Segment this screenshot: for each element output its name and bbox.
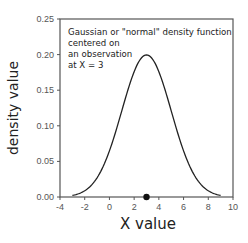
- annotation-line: centered on: [68, 38, 120, 48]
- y-tick-label: 0.20: [36, 50, 54, 60]
- y-axis-title: density value: [5, 61, 21, 155]
- x-tick-label: -2: [81, 202, 89, 212]
- y-tick-label: 0.00: [36, 192, 54, 202]
- y-tick-label: 0.10: [36, 121, 54, 131]
- y-tick-label: 0.15: [36, 85, 54, 95]
- x-tick-label: 8: [206, 202, 211, 212]
- x-tick-label: 4: [156, 202, 161, 212]
- x-tick-label: 0: [107, 202, 112, 212]
- chart: 0.000.050.100.150.200.25 -4-20246810 Gau…: [0, 0, 248, 243]
- x-axis-title: X value: [120, 215, 176, 233]
- annotation-line: an observation: [68, 49, 132, 59]
- x-tick-label: 6: [181, 202, 186, 212]
- x-tick-label: 10: [228, 202, 238, 212]
- observation-point: [143, 194, 149, 200]
- y-tick-label: 0.05: [36, 156, 54, 166]
- x-tick-label: 2: [132, 202, 137, 212]
- y-axis-ticks: 0.000.050.100.150.200.25: [36, 14, 60, 202]
- gaussian-curve: [72, 55, 220, 195]
- x-tick-label: -4: [56, 202, 64, 212]
- annotation-line: Gaussian or "normal" density function: [68, 27, 232, 37]
- y-tick-label: 0.25: [36, 14, 54, 24]
- annotation-line: at X = 3: [68, 60, 103, 70]
- annotation-text: Gaussian or "normal" density functioncen…: [68, 27, 232, 70]
